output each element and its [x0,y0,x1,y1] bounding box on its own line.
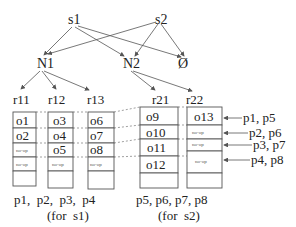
cell-o9: o9 [146,109,159,124]
caption-s1-processors: p1, p2, p3, p4 [14,192,96,207]
schedule-diagram: s1 s2 N1 N2 Ø r11 r12 r13 r21 r22 o1 o2 … [0,0,296,227]
cell-noop: no-op [16,162,28,167]
region-label-r11: r11 [13,92,30,107]
cell-noop: no-op [90,162,102,167]
region-r13: o6 o7 o8 no-op [88,112,114,189]
cell-noop: no-op [192,142,204,147]
caption-s2-processors: p5, p6, p7, p8 [136,192,208,207]
region-label-r22: r22 [186,92,203,107]
node-n1: N1 [37,56,54,71]
cell-o6: o6 [90,113,104,128]
row-label-p3-p7: p3, p7 [253,137,286,152]
edges-n1 [21,71,89,90]
node-empty-set: Ø [178,56,188,71]
row-label-p4-p8: p4, p8 [251,152,284,167]
caption-s1-note: (for s1) [47,208,89,223]
cell-o7: o7 [90,128,104,143]
cell-o11: o11 [147,140,166,155]
region-r22: o13 no-op no-op no-op [187,107,222,188]
caption-s2-note: (for s2) [158,208,200,223]
cell-noop: no-op [16,148,28,153]
region-r11: o1 o2 no-op no-op [13,112,36,186]
cell-o4: o4 [53,128,67,143]
region-r12: o3 o4 o5 no-op [48,112,73,188]
row-label-p1-p5: p1, p5 [243,110,276,125]
cell-noop: no-op [195,159,207,164]
cell-o8: o8 [90,142,103,157]
node-n2: N2 [123,56,140,71]
region-label-r13: r13 [87,92,104,107]
edges-s1 [44,26,181,57]
region-r21: o9 o10 o11 o12 [140,107,178,188]
cell-noop: no-op [52,162,64,167]
region-label-r12: r12 [48,92,65,107]
cell-o12: o12 [146,157,166,172]
edges-n2 [131,71,192,91]
node-s1: s1 [68,12,80,27]
cell-o2: o2 [16,128,29,143]
cell-o3: o3 [53,113,66,128]
cell-noop: no-op [192,130,204,135]
region-label-r21: r21 [152,92,169,107]
cell-o10: o10 [146,125,166,140]
cell-o13: o13 [194,109,214,124]
node-s2: s2 [155,12,167,27]
cell-o1: o1 [16,113,29,128]
cell-o5: o5 [53,142,66,157]
